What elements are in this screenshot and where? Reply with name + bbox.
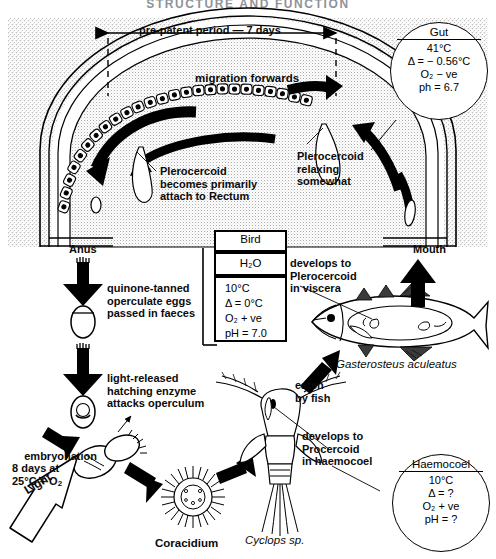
haemocoel-leader — [332, 466, 380, 491]
label-plerocercoid-attach: Plerocercoid becomes primarily attach to… — [160, 165, 257, 203]
bird-temp: 10°C — [225, 281, 285, 296]
label-eaten-by-fish: eaten by fish — [295, 379, 330, 404]
haemocoel-circle-header: Haemocoel — [393, 455, 489, 470]
egg-operculate — [71, 306, 95, 338]
gut-oxygen: O₂ − ve — [391, 68, 487, 81]
egg-hatching — [71, 396, 95, 428]
bird-label: Bird — [216, 232, 285, 247]
bird-box-header: Bird — [214, 230, 287, 252]
label-plerocercoid-relaxing: Plerocercoid relaxing somewhat — [297, 150, 364, 188]
worm-cross-section-left — [91, 197, 101, 213]
arrow-eggs-to-hatching — [63, 343, 103, 396]
bird-medium-label: H₂O — [216, 254, 285, 271]
coracidium-organism — [161, 466, 225, 528]
arrow-anus-to-eggs — [63, 257, 103, 306]
label-fish-species: Gasterosteus aculeatus — [336, 358, 457, 371]
gut-ph: ph = 6.7 — [391, 81, 487, 94]
gut-delta: Δ = − 0.56°C — [391, 55, 487, 68]
gut-circle-header: Gut — [391, 23, 487, 38]
haemocoel-temp: 10°C — [393, 474, 489, 487]
label-procercoid-haemocoel: develops to Procercoid in haemocoel — [302, 430, 372, 468]
label-anus: Anus — [69, 243, 97, 256]
haemocoel-delta: Δ = ? — [393, 487, 489, 500]
bird-ph: pH = 7.0 — [225, 326, 285, 341]
label-plerocercoid-viscera: develops to Plerocercoid in viscera — [290, 257, 357, 295]
label-prepatent-period: pre-patent period — 7 days — [139, 24, 281, 37]
haemocoel-oxygen: O₂ + ve — [393, 500, 489, 513]
haemocoel-ph: pH = ? — [393, 513, 489, 526]
fish-stickleback — [312, 283, 488, 361]
label-hatching-enzyme: light-released hatching enzyme attacks o… — [107, 372, 204, 410]
diagram-canvas: STRUCTURE AND FUNCTION — [0, 0, 496, 559]
label-coracidium: Coracidium — [155, 537, 218, 550]
arrow-to-coracidium — [124, 462, 163, 503]
gut-parameters-circle: Gut 41°C Δ = − 0.56°C O₂ − ve ph = 6.7 — [390, 22, 488, 120]
label-mouth: Mouth — [413, 243, 446, 256]
label-cyclops-species: Cyclops sp. — [245, 534, 304, 547]
label-embryonation: embryonation 8 days at 25°C + O2 — [12, 437, 97, 503]
bird-box-parameters: 10°C Δ = 0°C O₂ + ve pH = 7.0 — [214, 276, 287, 342]
label-eggs: quinone-tanned operculate eggs passed in… — [107, 282, 195, 320]
haemocoel-parameters-circle: Haemocoel 10°C Δ = ? O₂ + ve pH = ? — [392, 454, 490, 552]
gut-temp: 41°C — [391, 42, 487, 55]
bird-delta: Δ = 0°C — [225, 296, 285, 311]
bird-oxygen: O₂ + ve — [225, 311, 285, 326]
label-migration-forwards: migration forwards — [195, 72, 299, 85]
gut-circle-rule — [397, 39, 481, 40]
bird-box-medium: H₂O — [214, 252, 287, 276]
haemocoel-circle-rule — [399, 471, 483, 472]
